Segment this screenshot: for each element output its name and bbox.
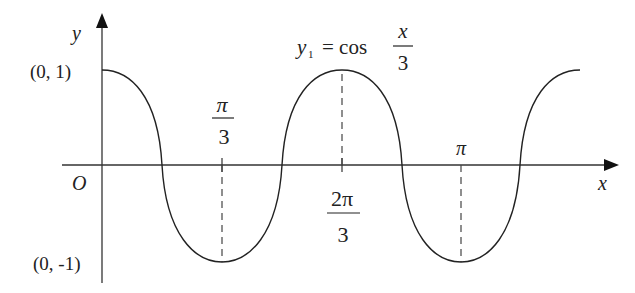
plot-canvas: y (0, 1) (0, -1) O x π 3 2π 3 π y 1 = co…: [0, 0, 635, 293]
tick-label-pi-over-3-num: π: [216, 92, 228, 117]
tick-label-pi: π: [456, 137, 467, 159]
x-axis-arrow-icon: [604, 159, 619, 171]
function-label-lhs: y: [295, 35, 307, 59]
x-axis-label: x: [597, 172, 607, 194]
function-label-frac-den: 3: [398, 51, 409, 75]
tick-label-2pi-over-3-num: 2π: [331, 186, 353, 211]
y-tick-label-top: (0, 1): [30, 61, 71, 83]
function-label-subscript: 1: [308, 48, 314, 60]
function-label-frac-num: x: [397, 19, 408, 43]
y-axis-arrow-icon: [96, 13, 108, 28]
function-label-eq: = cos: [322, 35, 367, 59]
y-tick-label-bottom: (0, -1): [33, 253, 80, 275]
tick-label-2pi-over-3-den: 3: [338, 222, 349, 247]
tick-label-pi-over-3-den: 3: [219, 124, 230, 149]
y-axis-label: y: [70, 22, 81, 45]
origin-label: O: [72, 172, 86, 194]
